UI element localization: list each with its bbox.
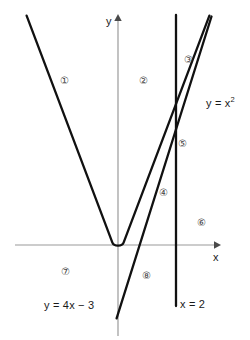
parabola-equation-exponent: 2 (231, 95, 235, 104)
math-diagram: y x y = x2 y = 4x − 3 x = 2 ① ② ③ ④ ⑤ ⑥ … (0, 0, 250, 340)
y-axis-label: y (106, 16, 112, 27)
region-marker-7: ⑦ (61, 267, 70, 277)
x-axis-arrowhead (214, 241, 221, 249)
region-marker-3: ③ (184, 55, 193, 65)
parabola-equation-label: y = x2 (206, 96, 235, 109)
vertical-line-equation-label: x = 2 (180, 299, 205, 310)
region-marker-1: ① (60, 76, 69, 86)
region-marker-4: ④ (159, 188, 168, 198)
parabola-equation-text: y = x (206, 97, 231, 109)
region-marker-2: ② (139, 76, 148, 86)
y-axis-arrowhead (114, 14, 121, 21)
x-axis-label: x (213, 252, 219, 263)
line-y-4x-minus-3 (117, 17, 212, 319)
region-marker-8: ⑧ (142, 271, 151, 281)
region-marker-6: ⑥ (197, 218, 206, 228)
diagram-canvas (0, 0, 250, 340)
region-marker-5: ⑤ (178, 139, 187, 149)
line-equation-label: y = 4x − 3 (44, 300, 94, 311)
